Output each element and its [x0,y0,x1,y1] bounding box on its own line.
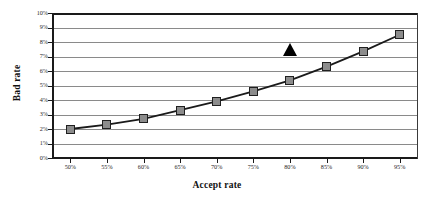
x-tick-label: 90% [343,164,383,170]
x-tick-label: 65% [160,164,200,170]
x-tick-label: 50% [50,164,90,170]
x-tick-label: 95% [380,164,420,170]
x-tick-mark [217,159,218,163]
x-tick-mark [363,159,364,163]
x-tick-mark [107,159,108,163]
x-tick-label: 60% [124,164,164,170]
x-tick-mark [327,159,328,163]
x-tick-label: 70% [197,164,237,170]
x-tick-mark [144,159,145,163]
x-tick-mark [70,159,71,163]
x-tick-label: 55% [87,164,127,170]
x-tick-mark [180,159,181,163]
x-axis-title: Accept rate [0,180,434,190]
x-axis-labels: 50%55%60%65%70%75%80%85%90%95% [0,0,434,200]
x-tick-label: 80% [270,164,310,170]
chart-container: Bad rate 0%1%2%3%4%5%6%7%8%9%10% 50%55%6… [0,0,434,200]
x-tick-mark [400,159,401,163]
x-tick-mark [253,159,254,163]
x-tick-label: 85% [307,164,347,170]
x-tick-label: 75% [233,164,273,170]
x-tick-mark [290,159,291,163]
